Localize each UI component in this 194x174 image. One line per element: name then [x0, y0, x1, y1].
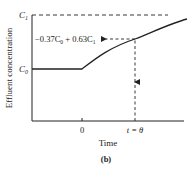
panel-label: (b) — [101, 154, 112, 164]
response-curve — [32, 19, 187, 69]
y-tick-c0: C0 — [19, 64, 28, 75]
step-response-figure: C1 C0 −0.37C0 + 0.63C1 Effluent concentr… — [0, 0, 194, 174]
x-tick-zero-label: 0 — [80, 125, 84, 135]
y-tick-c1: C1 — [19, 10, 28, 21]
annotation-label: −0.37C0 + 0.63C1 — [35, 34, 96, 45]
x-axis-label: Time — [99, 138, 118, 148]
x-tick-theta-label: t = θ — [127, 125, 144, 135]
y-axis-label: Effluent concentration — [4, 27, 14, 108]
